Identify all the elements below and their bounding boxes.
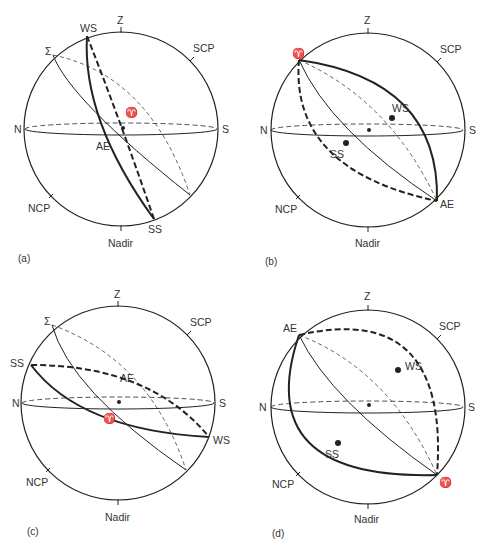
label-ncp: NCP bbox=[26, 476, 48, 488]
label-scp: SCP bbox=[440, 43, 462, 55]
summer-solstice-dot bbox=[343, 140, 349, 146]
horizon-front bbox=[25, 129, 217, 135]
label-vernal-equinox: ♈ bbox=[439, 476, 452, 489]
horizon-front bbox=[271, 130, 463, 136]
label-summer-solstice: SS bbox=[148, 223, 162, 235]
label-summer-solstice: SS bbox=[325, 448, 339, 460]
label-vernal-equinox: ♈ bbox=[125, 106, 138, 119]
label-autumnal-equinox: AE bbox=[96, 140, 110, 152]
winter-solstice-dot bbox=[395, 367, 401, 373]
label-zenith: Z bbox=[364, 14, 371, 26]
label-zenith: Z bbox=[364, 290, 371, 302]
label-ecliptic-pole: Σ bbox=[44, 315, 51, 327]
scp-tick bbox=[437, 335, 441, 339]
ecliptic-back bbox=[87, 36, 154, 219]
label-vernal-equinox: ♈ bbox=[292, 47, 305, 60]
label-winter-solstice: WS bbox=[392, 102, 409, 114]
celestial-sphere-diagrams: Z Nadir N S SCP NCP WS SS AE Σ ♈ (a) Z N… bbox=[0, 0, 487, 546]
observer-dot bbox=[367, 128, 371, 132]
summer-solstice-dot bbox=[335, 440, 341, 446]
label-autumnal-equinox: AE bbox=[440, 198, 454, 210]
celestial-sphere-outline bbox=[24, 32, 218, 226]
panel-d bbox=[271, 305, 465, 509]
label-winter-solstice: WS bbox=[213, 434, 230, 446]
observer-dot bbox=[367, 403, 371, 407]
panel-caption: (d) bbox=[272, 528, 284, 539]
label-summer-solstice: SS bbox=[330, 148, 344, 160]
label-north: N bbox=[260, 124, 268, 136]
label-scp: SCP bbox=[193, 42, 215, 54]
label-south: S bbox=[469, 124, 476, 136]
scp-tick bbox=[190, 57, 194, 61]
label-zenith: Z bbox=[114, 288, 121, 300]
label-vernal-equinox: ♈ bbox=[103, 412, 116, 425]
label-north: N bbox=[12, 397, 20, 409]
observer-dot bbox=[117, 400, 121, 404]
panel-caption: (a) bbox=[18, 253, 30, 264]
label-ncp: NCP bbox=[272, 478, 294, 490]
label-nadir: Nadir bbox=[108, 237, 134, 249]
label-winter-solstice: WS bbox=[80, 22, 97, 34]
scp-tick bbox=[437, 58, 441, 62]
label-autumnal-equinox: AE bbox=[120, 372, 134, 384]
label-nadir: Nadir bbox=[355, 237, 381, 249]
horizon-back bbox=[271, 124, 463, 130]
label-ncp: NCP bbox=[28, 202, 50, 214]
winter-solstice-dot bbox=[389, 115, 395, 121]
scp-tick bbox=[187, 331, 191, 335]
label-south: S bbox=[468, 401, 475, 413]
panel-caption: (c) bbox=[27, 526, 39, 537]
label-ecliptic-pole: Σ bbox=[45, 45, 52, 57]
panel-caption: (b) bbox=[265, 256, 277, 267]
label-summer-solstice: SS bbox=[10, 357, 24, 369]
label-nadir: Nadir bbox=[354, 513, 380, 525]
label-autumnal-equinox: AE bbox=[283, 322, 297, 334]
panel-c bbox=[21, 301, 215, 505]
label-winter-solstice: WS bbox=[405, 360, 422, 372]
label-ncp: NCP bbox=[275, 203, 297, 215]
label-north: N bbox=[259, 401, 267, 413]
label-zenith: Z bbox=[117, 14, 124, 26]
label-south: S bbox=[219, 397, 226, 409]
label-scp: SCP bbox=[190, 316, 212, 328]
label-north: N bbox=[14, 123, 22, 135]
panel-a bbox=[24, 27, 218, 231]
label-scp: SCP bbox=[439, 320, 461, 332]
label-south: S bbox=[222, 123, 229, 135]
observer-dot bbox=[121, 126, 125, 130]
label-nadir: Nadir bbox=[105, 511, 131, 523]
horizon-front bbox=[22, 403, 214, 409]
